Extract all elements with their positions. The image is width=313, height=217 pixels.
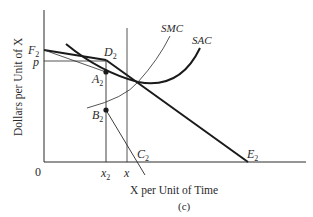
figure-caption: (c) [178,200,191,213]
label-b2: B2 [92,108,103,124]
label-c2: C2 [137,147,149,163]
label-smc: SMC [161,22,184,34]
point-b2 [103,107,108,112]
sac-curve [66,44,200,83]
x-axis-title: X per Unit of Time [130,184,218,197]
tick-label-x2: x2 [100,166,110,182]
label-d2: D2 [103,45,117,61]
y-axis-title: Dollars per Unit of X [12,37,25,136]
label-a2: A2 [91,72,103,88]
label-e2: E2 [246,147,258,163]
cost-curve-diagram: F2 p D2 A2 B2 C2 E2 SMC SAC 0 x2 x Dolla… [0,0,313,217]
tick-label-x: x [123,166,130,180]
label-p: p [32,55,39,69]
label-sac: SAC [192,34,212,46]
point-a2 [103,69,108,74]
origin-label: 0 [35,165,41,179]
